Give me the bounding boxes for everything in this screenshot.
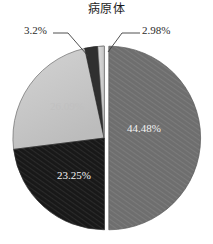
slice-label-26-09: 26.09%	[50, 100, 84, 112]
slice-label-2-98: 2.98%	[142, 24, 170, 36]
slice-label-3-2: 3.2%	[24, 24, 47, 36]
pie-slice-23	[14, 138, 105, 230]
slice-label-44-48: 44.48%	[127, 122, 161, 134]
pie-chart: 病原体	[0, 0, 213, 244]
pie-svg	[0, 0, 213, 244]
slice-label-23-25: 23.25%	[57, 169, 91, 181]
pie-slice-44	[109, 46, 201, 230]
